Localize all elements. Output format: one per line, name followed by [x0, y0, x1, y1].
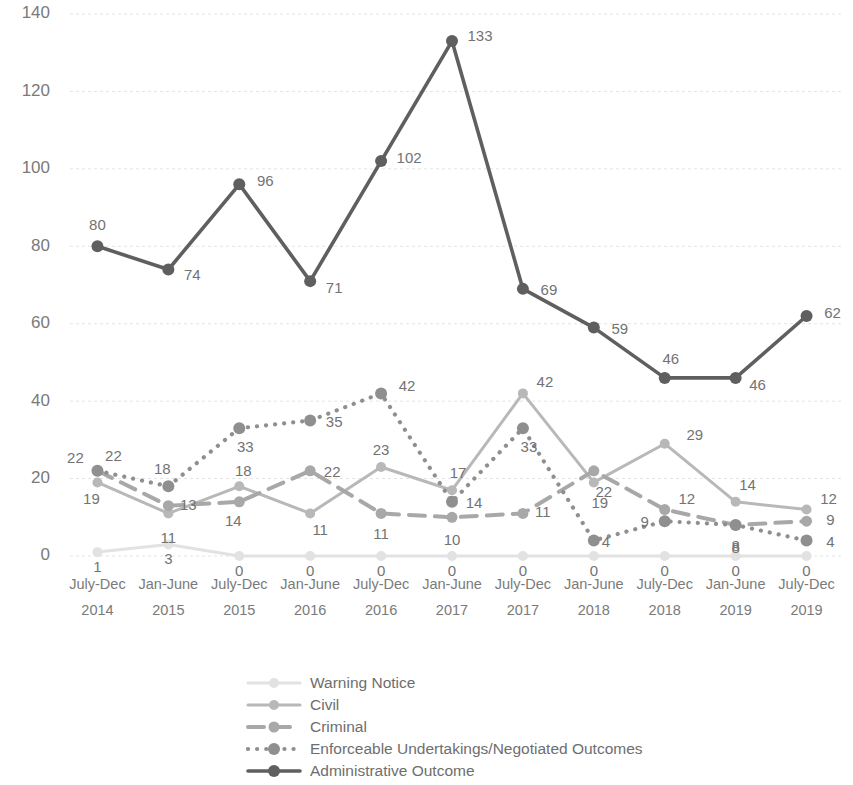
data-point [589, 551, 599, 561]
data-point [660, 439, 670, 449]
data-point [376, 462, 386, 472]
x-axis-year: 2019 [790, 602, 822, 618]
series-line [98, 393, 807, 513]
data-point [588, 322, 600, 334]
data-point [234, 551, 244, 561]
data-point [304, 275, 316, 287]
data-point [234, 496, 245, 507]
x-axis-tick-label: Jan-June2019 [706, 576, 766, 618]
legend-item[interactable]: Civil [246, 694, 806, 716]
chart-legend: Warning NoticeCivilCriminalEnforceable U… [246, 672, 806, 782]
series-administrative-outcome: 807496711021336959464662 [89, 27, 841, 393]
x-axis-year: 2017 [507, 602, 539, 618]
data-label: 0 [802, 562, 810, 579]
y-axis-tick-label: 0 [41, 545, 50, 564]
y-axis-tick-label: 120 [22, 81, 50, 100]
data-label: 33 [237, 438, 254, 455]
data-label: 74 [184, 266, 201, 283]
legend-item[interactable]: Criminal [246, 716, 806, 738]
legend-swatch-icon [246, 696, 302, 714]
data-label: 12 [678, 490, 695, 507]
x-axis-year: 2014 [81, 602, 113, 618]
data-point [447, 485, 457, 495]
data-label: 11 [373, 525, 389, 542]
legend-label: Civil [310, 696, 339, 714]
data-point [305, 508, 315, 518]
data-label: 18 [235, 462, 252, 479]
data-label: 8 [731, 537, 739, 554]
data-point [517, 283, 529, 295]
data-point [517, 422, 529, 434]
data-point [163, 500, 174, 511]
data-label: 59 [611, 320, 628, 337]
data-label: 0 [235, 562, 243, 579]
legend-item[interactable]: Enforceable Undertakings/Negotiated Outc… [246, 738, 806, 760]
legend-label: Criminal [310, 718, 367, 736]
data-label: 10 [444, 531, 461, 548]
data-label: 0 [519, 562, 527, 579]
y-axis-tick-label: 140 [22, 3, 50, 22]
legend-label: Enforceable Undertakings/Negotiated Outc… [310, 740, 643, 758]
data-point [730, 372, 742, 384]
data-point [162, 264, 174, 276]
data-label: 11 [161, 529, 177, 546]
data-point [304, 415, 316, 427]
data-label: 42 [537, 373, 554, 390]
data-point [92, 477, 102, 487]
data-point [801, 535, 813, 547]
legend-swatch-icon [246, 740, 302, 758]
x-axis-year: 2018 [649, 602, 681, 618]
x-axis-tick-label: July-Dec2016 [353, 576, 409, 618]
data-point [447, 551, 457, 561]
x-axis-year: 2016 [294, 602, 326, 618]
data-label: 0 [590, 562, 598, 579]
legend-label: Administrative Outcome [310, 762, 475, 780]
data-point [801, 516, 812, 527]
x-axis-year: 2015 [152, 602, 184, 618]
data-label: 133 [467, 27, 492, 44]
data-label: 0 [377, 562, 385, 579]
data-label: 12 [820, 490, 837, 507]
x-axis-tick-label: July-Dec2018 [637, 576, 693, 618]
x-axis-tick-label: Jan-June2017 [422, 576, 482, 618]
data-point [730, 519, 742, 531]
data-label: 18 [154, 460, 171, 477]
data-point [588, 535, 600, 547]
data-label: 71 [326, 279, 343, 296]
data-label: 22 [324, 463, 341, 480]
x-axis-tick-label: July-Dec2017 [495, 576, 551, 618]
data-point [375, 387, 387, 399]
legend-item[interactable]: Warning Notice [246, 672, 806, 694]
y-axis-tick-label: 20 [31, 468, 50, 487]
data-point [588, 465, 599, 476]
data-label: 0 [306, 562, 314, 579]
data-label: 22 [105, 447, 122, 464]
data-label: 9 [641, 513, 649, 530]
legend-swatch-icon [246, 674, 302, 692]
x-axis-year: 2017 [436, 602, 468, 618]
x-axis-tick-label: Jan-June2015 [139, 576, 199, 618]
data-point [659, 504, 670, 515]
data-point [517, 508, 528, 519]
data-label: 1 [93, 558, 101, 575]
data-label: 9 [826, 511, 834, 528]
data-point [659, 515, 671, 527]
chart-canvas: 020406080100120140July-Dec2014Jan-June20… [0, 0, 853, 660]
data-label: 96 [257, 172, 274, 189]
data-point [234, 481, 244, 491]
data-label: 29 [686, 426, 703, 443]
legend-swatch-icon [246, 718, 302, 736]
x-axis-year: 2016 [365, 602, 397, 618]
data-point [233, 422, 245, 434]
data-point [447, 512, 458, 523]
data-point [376, 508, 387, 519]
data-label: 14 [466, 494, 483, 511]
x-axis-year: 2019 [720, 602, 752, 618]
legend-swatch-icon [246, 762, 302, 780]
x-axis-tick-label: July-Dec2014 [69, 576, 125, 618]
data-point [731, 497, 741, 507]
legend-label: Warning Notice [310, 674, 415, 692]
data-label: 23 [373, 441, 390, 458]
legend-item[interactable]: Administrative Outcome [246, 760, 806, 782]
data-label: 11 [312, 521, 328, 538]
